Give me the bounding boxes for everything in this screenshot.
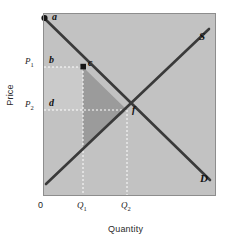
x-tick-q1: Q1 [77,200,87,212]
point-c-marker [80,64,86,70]
y-axis-title: Price [5,75,15,115]
label-demand-curve: D [200,172,208,184]
label-region-b: b [49,54,54,65]
label-point-a: a [52,11,57,22]
supply-demand-figure: Price Quantity P1 P2 0 Q1 Q2 a b c d f S… [0,0,242,245]
label-point-f: f [132,104,135,115]
x-axis-title: Quantity [108,224,143,234]
x-tick-q2: Q2 [121,200,131,212]
x-tick-origin: 0 [38,200,43,210]
label-supply-curve: S [199,30,205,42]
label-region-d: d [49,97,54,108]
point-a-marker [41,15,47,21]
y-tick-p1: P1 [25,56,34,68]
label-point-c: c [88,57,92,68]
y-tick-p2: P2 [25,99,34,111]
